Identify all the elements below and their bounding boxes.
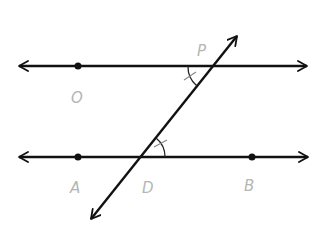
geometry-diagram: P O A D B [0, 0, 315, 229]
point-b-dot [249, 154, 256, 161]
label-p: P [197, 42, 207, 60]
angle-mark-p [184, 66, 197, 86]
label-a: A [69, 179, 80, 197]
point-o-dot [75, 63, 82, 70]
point-a-dot [75, 154, 82, 161]
label-b: B [244, 177, 254, 195]
label-o: O [71, 89, 83, 107]
label-d: D [142, 179, 154, 197]
angle-mark-d [154, 138, 167, 157]
transversal-line [91, 36, 237, 219]
